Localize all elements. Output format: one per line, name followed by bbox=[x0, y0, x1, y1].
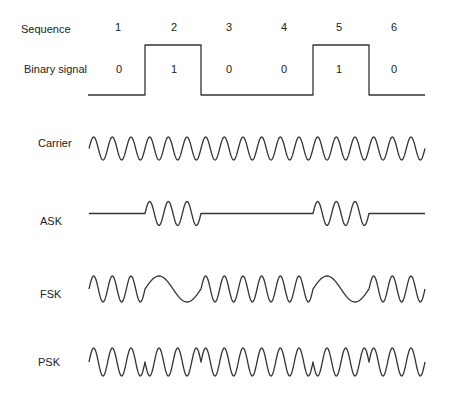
ask-waveform bbox=[89, 202, 425, 226]
waveforms bbox=[0, 0, 450, 399]
fsk-waveform bbox=[89, 276, 425, 302]
binary-signal-waveform bbox=[88, 45, 425, 95]
psk-waveform bbox=[89, 348, 425, 376]
carrier-waveform bbox=[89, 137, 425, 160]
